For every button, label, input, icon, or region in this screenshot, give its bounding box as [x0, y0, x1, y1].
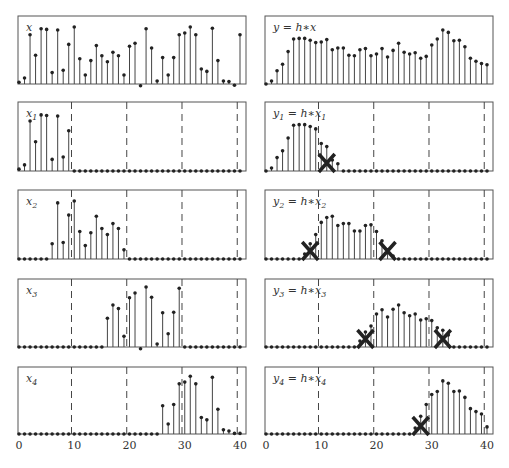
stem-marker [72, 432, 76, 436]
stem-marker [347, 169, 351, 173]
stem-marker [67, 432, 71, 436]
x-tick-label: 0 [263, 439, 270, 452]
stem-marker [413, 169, 417, 173]
stem-marker [166, 332, 170, 336]
stem-marker [480, 169, 484, 173]
stem-marker [183, 380, 187, 384]
stem-marker [441, 328, 445, 332]
stem-marker [308, 125, 312, 129]
stem-marker [72, 25, 76, 29]
stem-marker [72, 345, 76, 349]
stem-marker [227, 429, 231, 433]
stem-marker [308, 345, 312, 349]
stem-marker [286, 345, 290, 349]
stem-marker [233, 169, 237, 173]
stem-marker [106, 233, 110, 237]
stem-marker [342, 222, 346, 226]
stem-marker [270, 79, 274, 83]
stem-marker [78, 345, 82, 349]
stem-marker [50, 432, 54, 436]
stem-marker [353, 169, 357, 173]
stem-marker [441, 379, 445, 383]
stem-marker [397, 257, 401, 261]
stem-marker [314, 432, 318, 436]
stem-marker [17, 80, 21, 84]
panel-label: y1 = h∗x1 [272, 107, 326, 122]
stem-marker [39, 345, 43, 349]
stem-marker [336, 46, 340, 50]
stem-marker [188, 374, 192, 378]
stem-marker [353, 229, 357, 233]
stem-marker [150, 257, 154, 261]
stem-marker [111, 50, 115, 54]
stem-marker [227, 257, 231, 261]
stem-marker [319, 345, 323, 349]
stem-marker [292, 257, 296, 261]
stem-marker [128, 44, 132, 48]
stem-marker [419, 56, 423, 60]
stem-marker [380, 47, 384, 51]
stem-marker [95, 215, 99, 219]
stem-panel-right-3: y3 = h∗x3 [264, 279, 493, 349]
stem-marker [72, 169, 76, 173]
stem-marker [89, 59, 93, 63]
stem-marker [358, 169, 362, 173]
stem-marker [270, 166, 274, 170]
stem-marker [238, 33, 242, 37]
stem-marker [17, 432, 21, 436]
stem-marker [447, 381, 451, 385]
stem-marker [292, 345, 296, 349]
x-tick-label: 0 [16, 439, 23, 452]
stem-marker [452, 345, 456, 349]
stem-marker [413, 51, 417, 55]
stem-marker [144, 257, 148, 261]
stem-marker [139, 169, 143, 173]
stem-marker [172, 169, 176, 173]
stem-marker [264, 82, 268, 86]
stem-marker [485, 345, 489, 349]
stem-marker [458, 257, 462, 261]
stem-marker [45, 432, 49, 436]
stem-marker [128, 432, 132, 436]
stem-marker [155, 257, 159, 261]
stem-marker [452, 39, 456, 43]
stem-marker [84, 432, 88, 436]
stem-marker [391, 432, 395, 436]
stem-marker [166, 169, 170, 173]
stem-marker [67, 345, 71, 349]
stem-marker [139, 432, 143, 436]
stem-marker [188, 257, 192, 261]
stem-marker [34, 432, 38, 436]
stem-marker [286, 50, 290, 54]
stem-marker [50, 242, 54, 246]
stem-marker [435, 390, 439, 394]
stem-marker [67, 43, 71, 47]
stem-marker [380, 169, 384, 173]
stem-marker [474, 59, 478, 63]
stem-marker [166, 257, 170, 261]
panel-label: x3 [26, 284, 37, 299]
stem-marker [205, 169, 209, 173]
stem-marker [166, 422, 170, 426]
stem-marker [364, 224, 368, 228]
stem-marker [17, 167, 21, 171]
stem-marker [380, 432, 384, 436]
stem-marker [480, 345, 484, 349]
stem-marker [325, 345, 329, 349]
stem-marker [28, 257, 32, 261]
stem-marker [238, 432, 242, 436]
stem-marker [111, 432, 115, 436]
stem-marker [342, 345, 346, 349]
stem-marker [292, 432, 296, 436]
stem-marker [61, 345, 65, 349]
stem-marker [78, 57, 82, 61]
stem-marker [458, 38, 462, 42]
stem-marker [303, 37, 307, 41]
stem-marker [347, 345, 351, 349]
stem-marker [375, 432, 379, 436]
stem-marker [308, 38, 312, 42]
stem-marker [177, 169, 181, 173]
stem-marker [458, 169, 462, 173]
stem-marker [139, 257, 143, 261]
stem-marker [380, 308, 384, 312]
